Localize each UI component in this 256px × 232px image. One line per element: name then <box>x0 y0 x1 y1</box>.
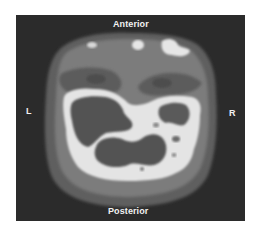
low-uptake-right-small-3 <box>172 153 177 157</box>
frontal-core-left <box>86 74 106 84</box>
low-uptake-right-small-1 <box>172 136 180 142</box>
scan-panel: Anterior Posterior L R <box>16 15 245 221</box>
anterior-spot-2 <box>132 40 144 50</box>
posterior-label: Posterior <box>108 206 148 216</box>
right-label: R <box>229 108 236 118</box>
brain-scan-image <box>16 15 245 221</box>
low-uptake-right-small-2 <box>153 123 159 128</box>
anterior-label: Anterior <box>113 19 149 29</box>
frontal-core-right <box>152 78 172 88</box>
left-label: L <box>26 106 32 116</box>
posterior-dot <box>140 167 144 171</box>
anterior-spot-1 <box>87 42 97 48</box>
